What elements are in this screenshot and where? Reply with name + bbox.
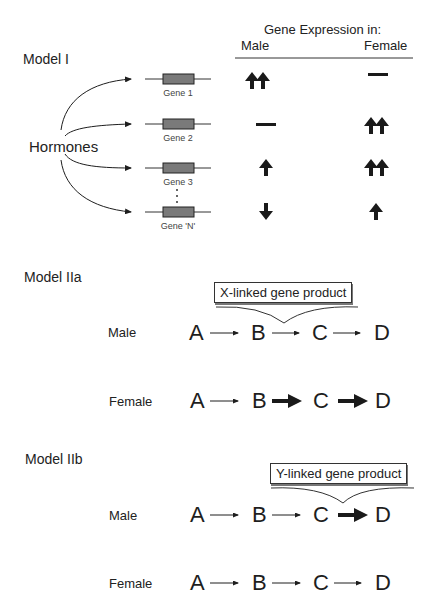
iia-female-bold-arrow-c-d — [338, 394, 368, 408]
arrow-to-gene-3 — [65, 154, 131, 168]
model-2b-title: Model IIb — [25, 451, 83, 467]
gene-3-label: Gene 3 — [143, 177, 213, 187]
arrow-to-gene-2 — [65, 124, 131, 136]
iia-female-node-d: D — [375, 388, 391, 414]
gene-1-male-double-up-arrow-icon — [245, 72, 270, 89]
x-linked-brace — [216, 307, 358, 323]
gene-2-label: Gene 2 — [143, 133, 213, 143]
iib-female-node-b: B — [252, 570, 267, 596]
hormone-arrows — [61, 79, 131, 212]
iia-female-bold-arrow-b-c — [272, 394, 302, 408]
iib-male-label: Male — [109, 508, 137, 523]
gene-3-male-up-arrow-icon — [259, 159, 273, 176]
iib-male-bold-arrow-c-d — [338, 508, 368, 522]
gene-2-icon — [145, 119, 211, 129]
arrow-to-gene-1 — [61, 79, 131, 130]
iib-male-node-a: A — [190, 502, 205, 528]
iib-female-node-d: D — [375, 570, 391, 596]
gene-3-female-double-up-arrow-icon — [364, 159, 389, 176]
iia-female-node-a: A — [190, 388, 205, 414]
gene-2-female-double-up-arrow-icon — [364, 117, 389, 134]
gene-n-label: Gene 'N' — [143, 221, 213, 231]
gene-2-male-no-change-icon — [256, 123, 276, 126]
model-2a-title: Model IIa — [24, 269, 82, 285]
iib-male-node-b: B — [252, 502, 267, 528]
iia-female-label: Female — [109, 394, 152, 409]
iia-male-node-a: A — [189, 320, 204, 346]
gene-3-icon — [145, 163, 211, 173]
gene-n-icon — [145, 207, 211, 217]
gene-1-female-no-change-icon — [368, 73, 388, 76]
gene-1-icon — [145, 74, 211, 84]
iia-male-label: Male — [108, 325, 136, 340]
iib-female-node-c: C — [313, 570, 329, 596]
gene-n-female-up-arrow-icon — [369, 203, 383, 220]
gene-1-label: Gene 1 — [143, 88, 213, 98]
gene-n-male-down-arrow-icon — [259, 203, 273, 220]
y-linked-gene-product-box: Y-linked gene product — [270, 463, 407, 484]
x-linked-gene-product-box: X-linked gene product — [214, 282, 352, 303]
iia-male-node-c: C — [312, 320, 328, 346]
ellipsis-icon — [176, 189, 178, 203]
iib-male-node-d: D — [375, 502, 391, 528]
y-linked-brace — [271, 488, 414, 503]
iib-male-node-c: C — [313, 502, 329, 528]
iib-female-label: Female — [109, 576, 152, 591]
iia-female-node-b: B — [252, 388, 267, 414]
iia-male-node-b: B — [251, 320, 266, 346]
iia-female-node-c: C — [313, 388, 329, 414]
iib-female-node-a: A — [190, 570, 205, 596]
iia-male-node-d: D — [374, 320, 390, 346]
